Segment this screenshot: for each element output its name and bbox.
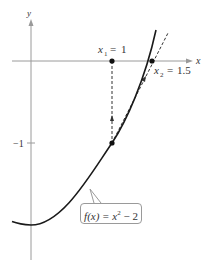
y-axis-arrow-icon — [29, 19, 34, 26]
svg-text:1.5: 1.5 — [177, 64, 191, 76]
svg-text:=: = — [110, 43, 116, 55]
function-label-callout: f(x) = x2 − 2 — [80, 203, 142, 224]
function-label-rhs: − 2 — [121, 210, 138, 222]
x2-label: x 2 = 1.5 — [153, 64, 191, 79]
callout-pointer — [90, 189, 101, 203]
newton-method-diagram: y x −1 x 1 = 1 x 2 = 1.5 — [0, 0, 206, 260]
svg-text:2: 2 — [160, 71, 164, 79]
x-axis-arrow-icon — [186, 59, 193, 64]
point-x1 — [109, 58, 114, 63]
svg-text:x: x — [97, 43, 103, 55]
svg-text:=: = — [167, 64, 173, 76]
y-tick-label: −1 — [13, 138, 24, 149]
y-axis-label: y — [26, 8, 31, 18]
function-label-lhs: f(x) = x — [84, 210, 117, 222]
svg-text:x: x — [153, 64, 159, 76]
parabola-curve — [12, 30, 156, 225]
point-x2 — [149, 58, 154, 63]
x1-label: x 1 = 1 — [97, 43, 127, 58]
vertical-arrow-icon — [110, 115, 114, 121]
svg-text:1: 1 — [104, 50, 108, 58]
point-on-curve — [109, 140, 114, 145]
x-axis-label: x — [195, 55, 201, 66]
svg-text:1: 1 — [121, 43, 127, 55]
